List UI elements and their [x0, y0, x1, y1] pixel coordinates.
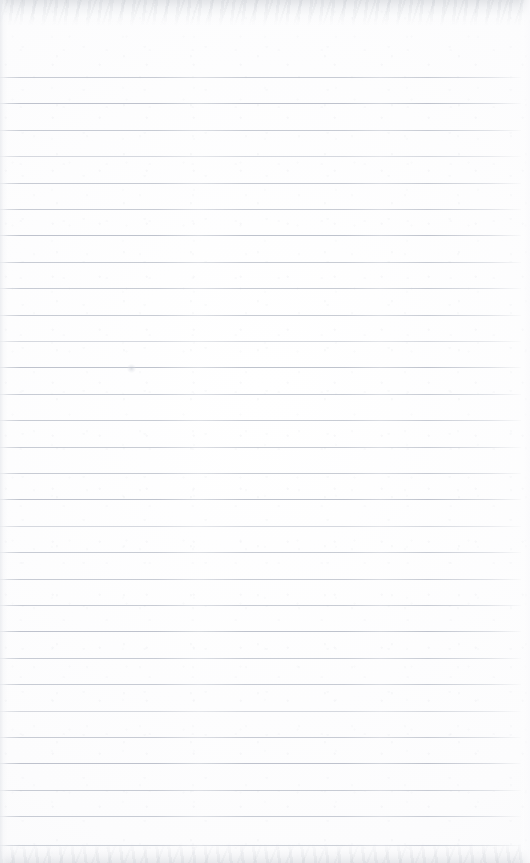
- scanned-notebook-page: [0, 0, 530, 863]
- rule-line: [0, 845, 521, 846]
- ruled-lines-layer: [0, 0, 530, 863]
- rule-line: [0, 631, 521, 632]
- rule-line: [0, 473, 521, 474]
- rule-line: [0, 341, 521, 342]
- rule-line: [0, 156, 521, 157]
- rule-line: [0, 737, 521, 738]
- rule-line: [0, 103, 521, 104]
- rule-line: [0, 684, 521, 685]
- rule-line: [0, 579, 521, 580]
- rule-line: [0, 420, 521, 421]
- rule-line: [0, 315, 521, 316]
- rule-line: [0, 711, 521, 712]
- rule-line: [0, 130, 521, 131]
- rule-line: [0, 235, 521, 236]
- rule-line: [0, 816, 521, 817]
- rule-line: [0, 526, 521, 527]
- rule-line: [0, 552, 521, 553]
- rule-line: [0, 288, 521, 289]
- rule-line: [0, 394, 521, 395]
- rule-line: [0, 763, 521, 764]
- rule-line: [0, 447, 521, 448]
- rule-line: [0, 605, 521, 606]
- rule-line: [0, 262, 521, 263]
- rule-line: [0, 77, 521, 78]
- rule-line: [0, 183, 521, 184]
- rule-line: [0, 658, 521, 659]
- rule-line: [0, 499, 521, 500]
- rule-line: [0, 790, 521, 791]
- rule-line: [0, 367, 521, 368]
- rule-line: [0, 209, 521, 210]
